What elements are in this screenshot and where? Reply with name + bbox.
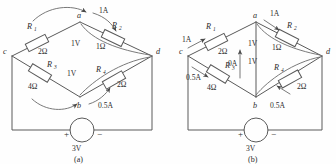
resistor-b-R4-value: 2Ω — [297, 82, 307, 91]
voltage-source-symbol — [70, 118, 94, 142]
resistor-b-R3-value: 4Ω — [207, 83, 217, 92]
annotation-1A-top: 1A — [99, 6, 109, 15]
source-value-label: 3V — [72, 144, 82, 153]
source-minus-sign: − — [97, 129, 102, 139]
node-b-label-c: c — [179, 47, 183, 56]
panel-b-caption: (b) — [248, 155, 258, 164]
resistor-b-R4-label: R — [273, 63, 279, 72]
panel-b: R 1 2Ω R 2 1Ω R 3 4Ω R 4 2Ω c d a b 1A — [179, 9, 331, 164]
resistor-R3-label: R — [46, 60, 52, 69]
node-label-c: c — [3, 47, 7, 56]
node-b-label-d: d — [326, 47, 331, 56]
resistor-R1-sub: 1 — [34, 26, 37, 32]
circuit-figure: R 1 2Ω R 2 1Ω R 3 4Ω R 4 2Ω c d a b 1A — [0, 0, 336, 164]
node-b-label-a: a — [253, 11, 257, 20]
resistor-R1-label: R — [26, 22, 32, 31]
annotation-b-1V-upper: 1V — [248, 39, 258, 48]
source-plus-sign: + — [64, 129, 69, 139]
resistor-b-R1-value: 2Ω — [218, 47, 228, 56]
resistor-R1-value: 2Ω — [38, 47, 48, 56]
panel-a-caption: (a) — [74, 155, 83, 164]
annotation-b-1V-lower: 1V — [248, 57, 258, 66]
resistor-R3-value: 4Ω — [28, 82, 38, 91]
node-label-d: d — [156, 47, 161, 56]
node-label-a: a — [77, 11, 81, 20]
annotation-b-0p5A-left: 0.5A — [186, 73, 201, 82]
current-arc-bottom-left — [32, 99, 77, 109]
resistor-b-R2-label: R — [286, 21, 292, 30]
annotation-b-0A: 0A — [228, 59, 238, 68]
resistor-R4-value: 2Ω — [117, 80, 127, 89]
annotation-1V-upper: 1V — [71, 39, 81, 48]
annotation-1V-lower: 1V — [67, 69, 77, 78]
source-b-plus-sign: + — [238, 129, 243, 139]
resistor-b-R1-label: R — [205, 22, 211, 31]
resistor-R2-value: 1Ω — [96, 42, 106, 51]
resistor-b-R1-sub: 1 — [213, 26, 216, 32]
panel-a: R 1 2Ω R 2 1Ω R 3 4Ω R 4 2Ω c d a b 1A — [3, 6, 161, 164]
annotation-0p5A-bottom: 0.5A — [98, 101, 113, 110]
annotation-b-0p5A-bottom: 0.5A — [270, 101, 285, 110]
node-label-b: b — [77, 101, 81, 110]
resistor-b-R2-value: 1Ω — [272, 43, 282, 52]
source-b-minus-sign: − — [271, 129, 276, 139]
outer-wire-right — [94, 56, 152, 130]
source-b-value-label: 3V — [246, 144, 256, 153]
annotation-b-1A-top: 1A — [270, 9, 280, 18]
node-b-label-b: b — [253, 101, 257, 110]
resistor-R3-sub: 3 — [53, 64, 57, 70]
resistor-R4-label: R — [95, 65, 101, 74]
resistor-b-R2-sub: 2 — [294, 25, 297, 31]
outer-wire-left — [12, 56, 70, 130]
figure-canvas: R 1 2Ω R 2 1Ω R 3 4Ω R 4 2Ω c d a b 1A — [0, 0, 336, 164]
voltage-source-b-symbol — [244, 118, 268, 142]
annotation-b-1A-left: 1A — [182, 35, 192, 44]
resistor-R2-sub: 2 — [119, 25, 122, 31]
current-arrow-1A-R2 — [264, 20, 279, 30]
